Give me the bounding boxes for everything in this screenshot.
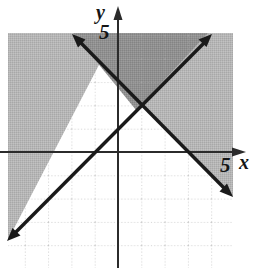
- x-axis-label: x: [239, 152, 249, 172]
- graph-figure: y 5 x 5: [0, 0, 259, 268]
- y-axis-tick-label-5: 5: [99, 22, 110, 43]
- x-axis-tick-label-5: 5: [220, 155, 231, 176]
- y-axis-label: y: [96, 2, 105, 22]
- grid-lines: [8, 33, 233, 268]
- coordinate-plane-svg: [0, 0, 259, 268]
